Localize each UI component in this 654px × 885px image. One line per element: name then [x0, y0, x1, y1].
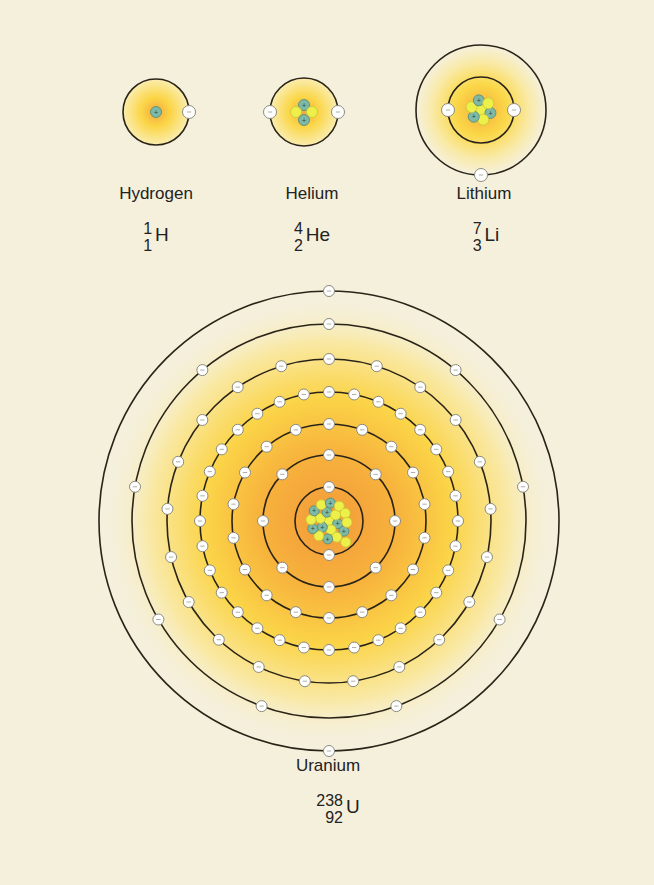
plus-sign-icon: +: [328, 500, 332, 507]
atom-lithium: +++: [416, 45, 546, 182]
neutron: [341, 537, 351, 547]
element-symbol: U: [346, 796, 360, 818]
nuclide-notation-helium: 42He: [294, 220, 330, 254]
plus-sign-icon: +: [302, 102, 306, 109]
plus-sign-icon: +: [320, 524, 324, 531]
neutron: [342, 517, 352, 527]
mass-number: 238: [316, 792, 343, 809]
plus-sign-icon: +: [336, 520, 340, 527]
element-name-uranium: Uranium: [296, 756, 360, 776]
nucleus: +: [151, 107, 162, 118]
element-symbol: He: [306, 224, 330, 246]
plus-sign-icon: +: [326, 536, 330, 543]
element-symbol: H: [155, 224, 169, 246]
atom-helium: ++: [264, 78, 345, 146]
atomic-number: 2: [294, 237, 303, 254]
mass-number: 1: [143, 220, 152, 237]
plus-sign-icon: +: [477, 97, 481, 104]
atomic-number: 3: [473, 237, 482, 254]
plus-sign-icon: +: [154, 109, 158, 116]
plus-sign-icon: +: [302, 117, 306, 124]
atom-uranium: ++++++++: [99, 286, 559, 757]
plus-sign-icon: +: [472, 113, 476, 120]
mass-number: 4: [294, 220, 303, 237]
neutron: [483, 98, 494, 109]
atomic-number: 92: [325, 809, 343, 826]
plus-sign-icon: +: [325, 509, 329, 516]
element-name-lithium: Lithium: [457, 184, 512, 204]
atomic-number: 1: [143, 237, 152, 254]
neutron: [316, 500, 326, 510]
plus-sign-icon: +: [311, 525, 315, 532]
neutron: [340, 508, 350, 518]
element-symbol: Li: [485, 224, 500, 246]
nuclide-notation-uranium: 23892U: [316, 792, 359, 826]
plus-sign-icon: +: [488, 110, 492, 117]
neutron: [332, 532, 342, 542]
plus-sign-icon: +: [312, 507, 316, 514]
mass-number: 7: [473, 220, 482, 237]
atom-hydrogen: +: [123, 79, 196, 145]
nuclide-notation-lithium: 73Li: [473, 220, 500, 254]
atomic-models-diagram: ++++++++++++++: [0, 0, 654, 885]
plus-sign-icon: +: [342, 528, 346, 535]
nuclide-notation-hydrogen: 11H: [143, 220, 169, 254]
element-name-helium: Helium: [286, 184, 339, 204]
element-name-hydrogen: Hydrogen: [119, 184, 193, 204]
